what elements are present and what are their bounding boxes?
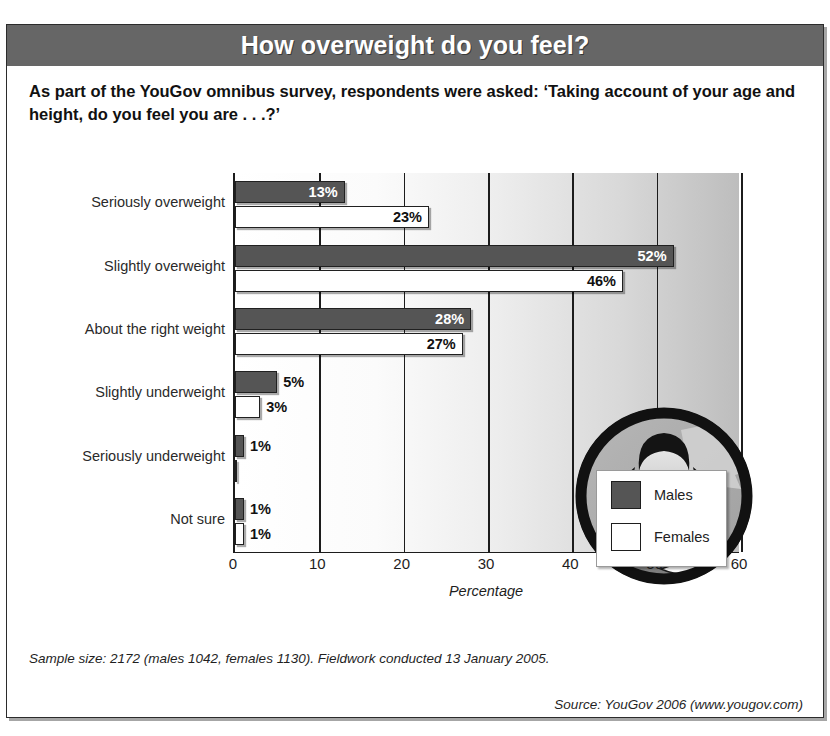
legend-item-females: Females (611, 523, 726, 551)
bar-value-females-1: 46% (587, 273, 622, 289)
bar-value-females-0: 23% (393, 209, 428, 225)
x-tick-20: 20 (393, 555, 410, 572)
bar-females-1: 46% (235, 270, 623, 292)
x-axis-label: Percentage (233, 583, 739, 599)
gridline-20 (404, 173, 406, 552)
gridline-10 (319, 173, 321, 552)
sample-size-note: Sample size: 2172 (males 1042, females 1… (29, 651, 550, 666)
category-label-1: Slightly overweight (17, 258, 225, 274)
bar-value-males-0: 13% (309, 184, 344, 200)
legend-item-males: Males (611, 481, 726, 509)
bar-value-males-2: 28% (435, 311, 470, 327)
bar-value-females-5: 1% (250, 526, 271, 542)
chart-title-band: How overweight do you feel? (7, 25, 823, 66)
category-label-4: Seriously underweight (17, 448, 225, 464)
bar-value-males-5: 1% (250, 501, 271, 517)
males-swatch-icon (611, 481, 641, 509)
bar-value-females-2: 27% (427, 336, 462, 352)
chart-subtitle: As part of the YouGov omnibus survey, re… (29, 80, 804, 127)
legend-label-females: Females (654, 529, 710, 545)
bar-value-females-3: 3% (266, 399, 287, 415)
bar-males-0: 13% (235, 181, 345, 203)
category-label-3: Slightly underweight (17, 384, 225, 400)
bar-males-3 (235, 371, 277, 393)
x-tick-10: 10 (309, 555, 326, 572)
x-tick-0: 0 (229, 555, 237, 572)
bar-value-males-4: 1% (250, 438, 271, 454)
x-tick-40: 40 (562, 555, 579, 572)
chart-figure: How overweight do you feel? As part of t… (6, 24, 824, 718)
bar-females-4 (235, 460, 237, 482)
bar-males-4 (235, 435, 244, 457)
category-label-column: Seriously overweightSlightly overweightA… (15, 173, 225, 553)
x-tick-30: 30 (478, 555, 495, 572)
bar-females-2: 27% (235, 333, 463, 355)
legend: Males Females (596, 470, 727, 567)
females-swatch-icon (611, 523, 641, 551)
bar-females-3 (235, 396, 260, 418)
legend-label-males: Males (654, 487, 693, 503)
plot-wrapper: Seriously overweightSlightly overweightA… (7, 173, 825, 613)
bar-value-males-3: 5% (283, 374, 304, 390)
category-label-2: About the right weight (17, 321, 225, 337)
bar-value-males-1: 52% (638, 248, 673, 264)
bar-males-5 (235, 498, 244, 520)
category-label-5: Not sure (17, 511, 225, 527)
bar-males-1: 52% (235, 245, 674, 267)
bar-females-5 (235, 523, 244, 545)
bar-males-2: 28% (235, 308, 471, 330)
category-label-0: Seriously overweight (17, 194, 225, 210)
x-tick-60: 60 (731, 555, 748, 572)
bar-females-0: 23% (235, 206, 429, 228)
page-title: How overweight do you feel? (241, 31, 590, 60)
gridline-30 (488, 173, 490, 552)
source-note: Source: YouGov 2006 (www.yougov.com) (554, 697, 803, 712)
